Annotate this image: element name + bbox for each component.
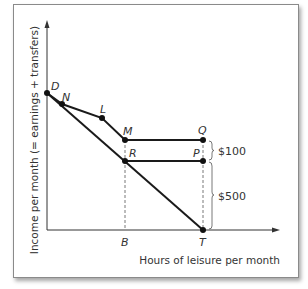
label-m: M bbox=[123, 125, 133, 138]
label-p: P bbox=[193, 147, 200, 160]
amount-500-label: $500 bbox=[218, 190, 246, 203]
point-t-marker bbox=[200, 227, 206, 233]
brace-500 bbox=[209, 162, 214, 229]
point-r-marker bbox=[122, 158, 128, 164]
label-l: L bbox=[100, 103, 106, 116]
tick-t: T bbox=[199, 236, 207, 249]
point-d-marker bbox=[44, 90, 50, 96]
budget-constraint-diagram: D N L M Q R P $100 $500 B T Hours of lei… bbox=[0, 0, 308, 289]
point-q-marker bbox=[200, 137, 206, 143]
brace-100 bbox=[209, 141, 214, 160]
label-r: R bbox=[129, 147, 137, 160]
x-axis-arrow-icon bbox=[272, 228, 280, 233]
amount-100-label: $100 bbox=[218, 145, 246, 158]
tick-b: B bbox=[121, 236, 129, 249]
x-axis-label: Hours of leisure per month bbox=[139, 254, 280, 266]
y-axis-arrow-icon bbox=[45, 20, 50, 28]
label-d: D bbox=[51, 80, 59, 93]
label-n: N bbox=[62, 91, 70, 104]
point-p-marker bbox=[200, 158, 206, 164]
y-axis-label: Income per month (= earnings + transfers… bbox=[28, 26, 40, 254]
label-q: Q bbox=[198, 124, 207, 137]
